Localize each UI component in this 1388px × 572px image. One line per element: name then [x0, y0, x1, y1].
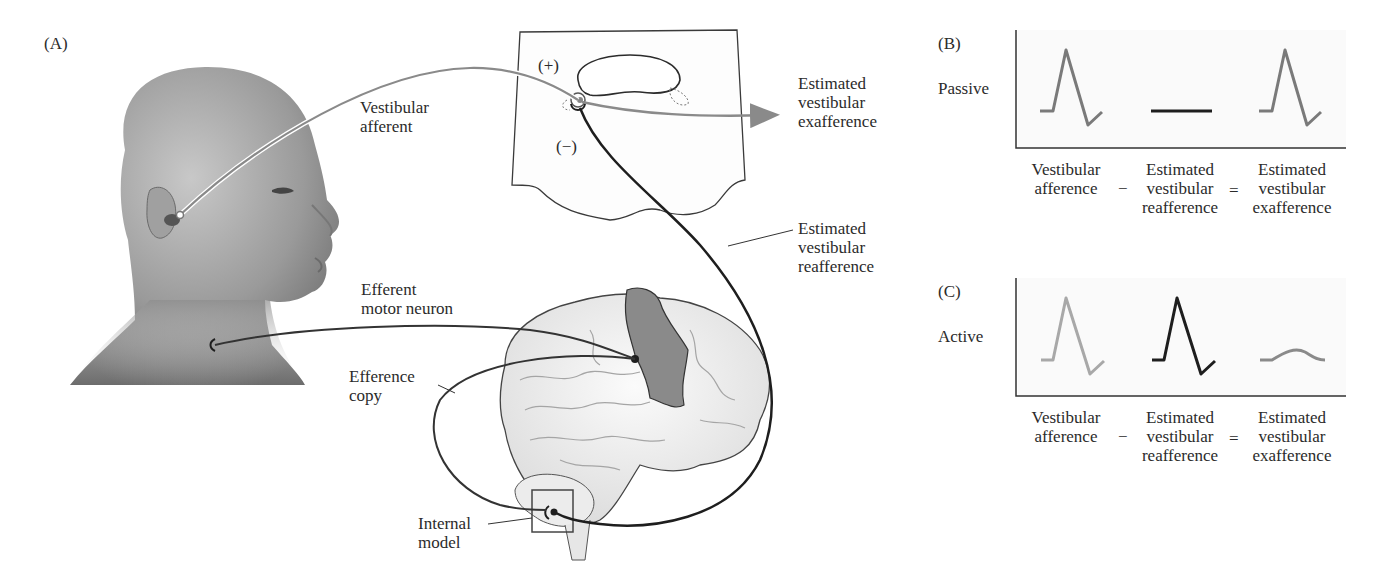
figure-canvas	[0, 0, 1388, 572]
active-minus-operator: −	[1118, 427, 1128, 446]
plus-sign-label: (+)	[538, 56, 559, 75]
active-plot	[1016, 278, 1346, 396]
panel-b-tag: (B)	[938, 34, 961, 53]
vestibular-afferent-label: Vestibular afferent	[360, 98, 429, 136]
active-col-afference: Vestibular afference	[1018, 408, 1114, 446]
internal-model-label: Internal model	[418, 514, 471, 552]
active-row-label: Active	[938, 327, 983, 346]
minus-sign-label: (−)	[556, 137, 577, 156]
efferent-motor-neuron-label: Efferent motor neuron	[361, 280, 453, 318]
human-head-illustration	[70, 67, 339, 385]
passive-plot	[1016, 30, 1346, 148]
active-col-exafference: Estimated vestibular exafference	[1240, 408, 1344, 465]
internal-model-leader	[488, 518, 532, 524]
brain-illustration	[500, 288, 769, 560]
reafference-leader	[728, 230, 793, 246]
passive-minus-operator: −	[1118, 179, 1128, 198]
active-col-reafference: Estimated vestibular reafference	[1130, 408, 1230, 465]
passive-col-afference: Vestibular afference	[1018, 160, 1114, 198]
passive-col-exafference: Estimated vestibular exafference	[1240, 160, 1344, 217]
estimated-exafference-label: Estimated vestibular exafference	[798, 74, 877, 131]
passive-col-reafference: Estimated vestibular reafference	[1130, 160, 1230, 217]
estimated-reafference-label: Estimated vestibular reafference	[798, 219, 874, 276]
panel-c-tag: (C)	[938, 282, 961, 301]
active-equals-operator: =	[1229, 429, 1239, 448]
efference-copy-label: Efference copy	[349, 367, 415, 405]
panel-a-tag: (A)	[44, 34, 68, 53]
passive-equals-operator: =	[1229, 181, 1239, 200]
passive-row-label: Passive	[938, 79, 989, 98]
